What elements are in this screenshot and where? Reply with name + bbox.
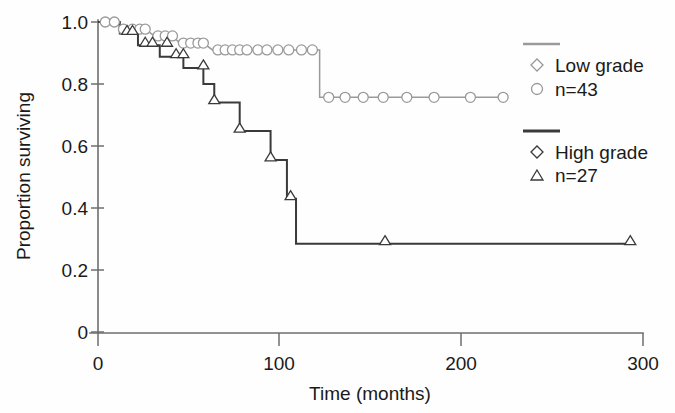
legend-count-high-grade: n=27 — [555, 165, 598, 186]
censor-mark-circle — [109, 17, 119, 27]
censor-mark-circle — [198, 38, 208, 48]
censor-mark-circle — [340, 92, 350, 102]
legend-count-low-grade: n=43 — [555, 79, 598, 100]
censor-mark-circle — [140, 24, 150, 34]
y-axis-title: Proportion surviving — [13, 92, 34, 260]
x-tick-label-100: 100 — [263, 353, 295, 374]
legend-triangle-icon-high-grade — [531, 170, 543, 180]
censor-mark-circle — [378, 92, 388, 102]
censor-mark-triangle — [234, 123, 245, 132]
censor-mark-triangle — [380, 236, 391, 245]
legend-label-high-grade: High grade — [555, 142, 648, 163]
x-tick-label-200: 200 — [445, 353, 477, 374]
censor-mark-circle — [498, 92, 508, 102]
censor-mark-circle — [402, 92, 412, 102]
censor-mark-circle — [284, 45, 294, 55]
legend-diamond-icon-high-grade — [531, 146, 543, 158]
censor-mark-triangle — [625, 236, 636, 245]
kaplan-meier-plot: Proportion surviving 1.0 0.8 0.6 0.4 0.2… — [0, 0, 675, 413]
censor-mark-circle — [262, 45, 272, 55]
y-tick-label-1: 1.0 — [62, 12, 88, 33]
censor-mark-circle — [429, 92, 439, 102]
survival-chart-figure: Proportion surviving 1.0 0.8 0.6 0.4 0.2… — [0, 0, 675, 413]
low-grade-censor-marks — [100, 17, 508, 102]
censor-mark-triangle — [265, 152, 276, 161]
y-tick-label-0: 0 — [77, 322, 88, 343]
y-tick-label-04: 0.4 — [62, 198, 89, 219]
y-tick-label-08: 0.8 — [62, 74, 88, 95]
x-tick-label-300: 300 — [627, 353, 659, 374]
x-axis-title: Time (months) — [309, 383, 431, 404]
y-tick-label-06: 0.6 — [62, 136, 88, 157]
legend-diamond-icon-low-grade — [531, 59, 543, 71]
censor-mark-circle — [465, 92, 475, 102]
censor-mark-circle — [242, 45, 252, 55]
y-tick-label-02: 0.2 — [62, 260, 88, 281]
x-tick-label-0: 0 — [93, 353, 104, 374]
legend-circle-icon-low-grade — [532, 84, 543, 95]
censor-mark-circle — [324, 92, 334, 102]
legend-label-low-grade: Low grade — [555, 55, 644, 76]
censor-mark-circle — [273, 45, 283, 55]
censor-mark-triangle — [198, 60, 209, 69]
censor-mark-triangle — [209, 95, 220, 104]
censor-mark-circle — [296, 45, 306, 55]
censor-mark-circle — [358, 92, 368, 102]
censor-mark-circle — [307, 45, 317, 55]
